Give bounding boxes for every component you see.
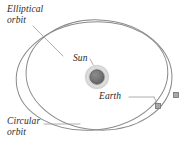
- label-circular-orbit: Circular orbit: [7, 116, 40, 137]
- sun-body: [83, 63, 111, 91]
- label-earth: Earth: [99, 91, 121, 102]
- label-sun: Sun: [73, 53, 88, 64]
- orbit-diagram: Elliptical orbit Circular orbit Sun Eart…: [0, 0, 185, 150]
- sun-core-icon: [90, 70, 104, 84]
- label-elliptical-orbit: Elliptical orbit: [7, 4, 43, 25]
- earth-markers: [156, 93, 179, 109]
- earth-marker-circular-icon: [174, 93, 179, 98]
- earth-marker-elliptical-icon: [156, 104, 161, 109]
